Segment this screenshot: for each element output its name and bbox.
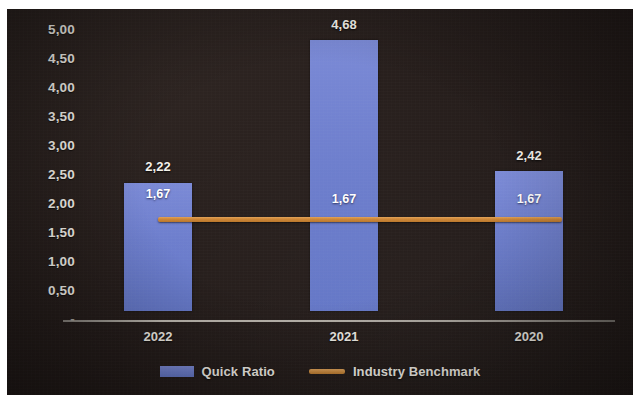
y-axis-tick: 0,50 bbox=[29, 283, 75, 298]
y-axis-tick: 4,50 bbox=[29, 51, 75, 66]
y-axis-tick: 3,00 bbox=[29, 138, 75, 153]
x-axis-line bbox=[63, 320, 615, 322]
photo-frame: 5,00 4,50 4,00 3,50 3,00 2,50 2,00 1,50 … bbox=[0, 0, 633, 395]
legend-label-industry-benchmark: Industry Benchmark bbox=[353, 364, 481, 379]
y-axis-tick: 1,50 bbox=[29, 225, 75, 240]
chart-slide: 5,00 4,50 4,00 3,50 3,00 2,50 2,00 1,50 … bbox=[7, 9, 633, 395]
y-axis-tick: 5,00 bbox=[29, 22, 75, 37]
x-axis-label-2022: 2022 bbox=[103, 329, 213, 344]
legend-item-quick-ratio[interactable]: Quick Ratio bbox=[160, 364, 275, 379]
x-axis-label-2020: 2020 bbox=[474, 329, 584, 344]
bar-quick-ratio-2021 bbox=[310, 40, 378, 311]
industry-benchmark-line bbox=[158, 217, 562, 222]
legend-item-industry-benchmark[interactable]: Industry Benchmark bbox=[309, 364, 481, 379]
legend-bar-swatch-icon bbox=[160, 366, 194, 377]
y-axis-tick: 1,00 bbox=[29, 254, 75, 269]
y-axis-tick: 4,00 bbox=[29, 80, 75, 95]
y-axis-tick: - bbox=[29, 312, 75, 327]
chart-plot-area: 5,00 4,50 4,00 3,50 3,00 2,50 2,00 1,50 … bbox=[7, 9, 633, 395]
bar-value-label-2021: 4,68 bbox=[299, 17, 389, 32]
legend-label-quick-ratio: Quick Ratio bbox=[202, 364, 275, 379]
y-axis-tick: 2,50 bbox=[29, 167, 75, 182]
legend-line-swatch-icon bbox=[309, 369, 345, 374]
bar-value-label-2020: 2,42 bbox=[484, 148, 574, 163]
benchmark-value-label-2022: 1,67 bbox=[113, 187, 203, 201]
bar-quick-ratio-2022 bbox=[124, 183, 192, 311]
chart-legend: Quick Ratio Industry Benchmark bbox=[7, 364, 633, 379]
bar-value-label-2022: 2,22 bbox=[113, 159, 203, 174]
x-axis-label-2021: 2021 bbox=[289, 329, 399, 344]
y-axis-tick: 2,00 bbox=[29, 196, 75, 211]
benchmark-value-label-2021: 1,67 bbox=[299, 192, 389, 206]
benchmark-value-label-2020: 1,67 bbox=[484, 192, 574, 206]
y-axis-tick: 3,50 bbox=[29, 109, 75, 124]
